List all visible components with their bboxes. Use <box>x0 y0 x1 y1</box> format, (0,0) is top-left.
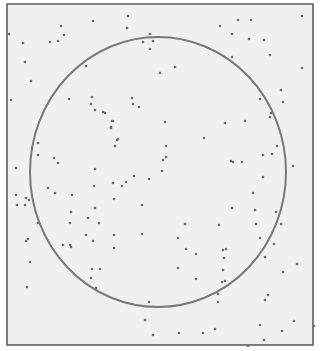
scatter-dot <box>16 204 19 207</box>
scatter-dot <box>164 121 167 124</box>
scatter-dot <box>254 209 257 212</box>
scatter-dot <box>280 89 283 92</box>
scatter-dot <box>8 33 11 36</box>
scatter-dot <box>275 211 278 214</box>
scatter-dot <box>148 178 151 181</box>
scatter-dot <box>247 345 250 348</box>
scatter-dot <box>121 185 124 188</box>
figure-frame <box>7 4 313 345</box>
scatter-dot <box>90 277 93 280</box>
scatter-dot <box>37 142 40 145</box>
circle-dot-figure <box>0 0 321 351</box>
scatter-dot <box>221 281 224 284</box>
scatter-dot <box>184 223 187 226</box>
scatter-dot <box>94 109 97 112</box>
scatter-dot <box>24 204 27 207</box>
scatter-dot <box>218 224 221 227</box>
scatter-dot <box>29 261 32 264</box>
scatter-dot <box>224 122 227 125</box>
scatter-dot <box>91 268 94 271</box>
scatter-dot <box>15 194 18 197</box>
scatter-dot <box>90 103 93 106</box>
scatter-dot <box>144 319 147 322</box>
scatter-dot <box>217 301 220 304</box>
scatter-dot <box>159 72 162 75</box>
scatter-dot <box>244 120 247 123</box>
scatter-dot <box>94 168 97 171</box>
scatter-dot <box>99 268 102 271</box>
scatter-dot <box>259 98 262 101</box>
scatter-dot <box>10 99 13 102</box>
scatter-dot <box>69 244 72 247</box>
scatter-dot <box>85 234 88 237</box>
scatter-dot <box>282 101 285 104</box>
scatter-dot <box>225 248 228 251</box>
scatter-dot <box>54 192 57 195</box>
scatter-dot <box>273 243 276 246</box>
scatter-dot <box>85 65 88 68</box>
scatter-dot <box>92 240 95 243</box>
scatter-dot <box>25 240 28 243</box>
scatter-dot <box>132 103 135 106</box>
scatter-dot <box>263 39 266 42</box>
scatter-dot <box>219 25 222 28</box>
scatter-dot <box>232 161 235 164</box>
scatter-dot <box>141 233 144 236</box>
scatter-dot <box>93 185 96 188</box>
scatter-dot <box>125 181 128 184</box>
scatter-dot <box>313 325 316 328</box>
scatter-dot <box>63 34 66 37</box>
scatter-dot <box>282 271 285 274</box>
scatter-dot <box>57 162 60 165</box>
scatter-dot <box>24 61 27 64</box>
scatter-dot <box>142 41 145 44</box>
scatter-dot <box>62 244 65 247</box>
scatter-dot <box>269 54 272 57</box>
scatter-dot <box>114 145 117 148</box>
scatter-dot <box>127 15 130 18</box>
scatter-dot <box>15 167 18 170</box>
scatter-dot <box>262 154 265 157</box>
scatter-dot <box>296 263 299 266</box>
scatter-dot <box>222 269 225 272</box>
scatter-dot <box>53 157 56 160</box>
scatter-dot <box>112 182 115 185</box>
scatter-dot <box>281 330 284 333</box>
scatter-dot <box>267 294 270 297</box>
scatter-dot <box>112 120 115 123</box>
scatter-dot <box>280 223 283 226</box>
scatter-dot <box>126 27 129 30</box>
scatter-dot <box>259 324 262 327</box>
scatter-dot <box>264 256 267 259</box>
scatter-dot <box>292 165 295 168</box>
scatter-dot <box>237 19 240 22</box>
scatter-dot <box>185 248 188 251</box>
scatter-dot <box>25 197 28 200</box>
scatter-dot <box>27 238 30 241</box>
scatter-dot <box>195 253 198 256</box>
scatter-dot <box>131 97 134 100</box>
scatter-dot <box>276 145 279 148</box>
scatter-dot <box>301 67 304 70</box>
scatter-dot <box>110 127 113 130</box>
scatter-dot <box>161 170 164 173</box>
scatter-dot <box>224 280 227 283</box>
scatter-dot <box>104 112 107 115</box>
scatter-dot <box>231 33 234 36</box>
scatter-dot <box>252 192 255 195</box>
scatter-dot <box>223 257 226 260</box>
scatter-dot <box>263 339 266 342</box>
scatter-dot <box>165 145 168 148</box>
scatter-dot <box>57 40 60 43</box>
scatter-dot <box>37 154 40 157</box>
scatter-dot <box>293 320 296 323</box>
scatter-dot <box>117 138 120 141</box>
scatter-dot <box>217 293 220 296</box>
scatter-dot <box>231 207 234 210</box>
scatter-dot <box>113 198 116 201</box>
scatter-dot <box>202 332 205 335</box>
scatter-dot <box>178 332 181 335</box>
scatter-dot <box>165 156 168 159</box>
scatter-dot <box>68 98 71 101</box>
scatter-dot <box>152 40 155 43</box>
